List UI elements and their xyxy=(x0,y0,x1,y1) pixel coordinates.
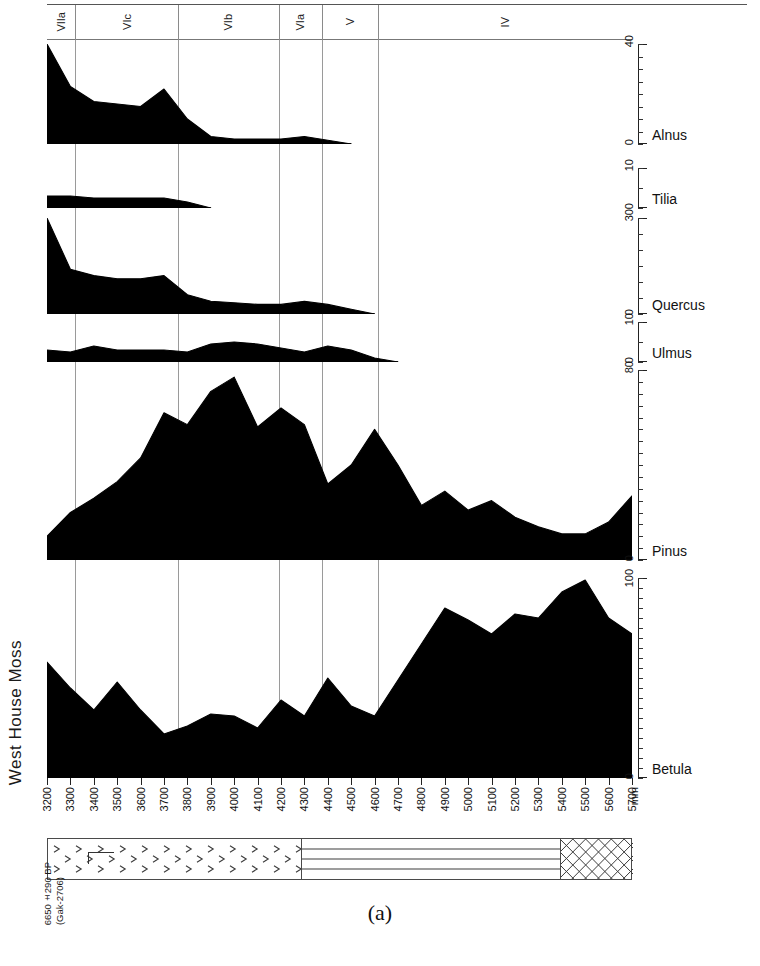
axis-tick-label-box: 30 xyxy=(623,209,635,223)
axis-tick xyxy=(638,658,643,659)
depth-tick xyxy=(398,778,399,785)
depth-tick xyxy=(258,778,259,785)
zone-label-text: VIb xyxy=(222,14,234,31)
axis-tick xyxy=(638,501,643,502)
figure-caption: (a) xyxy=(0,900,760,926)
axis-tick-label: 80 xyxy=(623,361,635,373)
depth-tick xyxy=(304,778,305,785)
depth-tick-label-box: 3800 xyxy=(181,787,193,813)
depth-tick-label: 5300 xyxy=(532,787,544,811)
depth-tick-label-box: 4600 xyxy=(369,787,381,813)
axis-tick xyxy=(638,648,643,649)
pollen-diagram: West House Moss VIIaVIcVIbVIaVIV 040Alnu… xyxy=(0,0,760,966)
axis-tick-label-box: 0 xyxy=(623,551,635,563)
depth-tick-label: 4400 xyxy=(322,787,334,811)
depth-tick-label: 3300 xyxy=(64,787,76,811)
taxon-label-betula: Betula xyxy=(652,761,692,777)
cross-hatch-mark xyxy=(598,839,633,879)
axis-tick xyxy=(638,489,643,490)
depth-tick-label-box: 5400 xyxy=(556,787,568,813)
depth-tick-label: 5600 xyxy=(603,787,615,811)
chevron-mark xyxy=(208,846,213,852)
axis-tick xyxy=(638,69,643,70)
axis-tick xyxy=(638,234,643,235)
curve-betula xyxy=(47,578,632,778)
axis-tick xyxy=(638,394,643,395)
axis-tick-label-box: 40 xyxy=(623,35,635,49)
depth-tick-label-box: 4500 xyxy=(345,787,357,813)
axis-tick-label: 30 xyxy=(623,209,635,221)
axis-tick xyxy=(638,588,643,589)
depth-tick-label: 5000 xyxy=(462,787,474,811)
depth-tick-label: 4700 xyxy=(392,787,404,811)
depth-tick xyxy=(585,778,586,785)
depth-tick xyxy=(211,778,212,785)
axis-tick xyxy=(638,453,643,454)
axis-tick xyxy=(638,382,643,383)
chevron-mark xyxy=(153,856,158,862)
zone-header-strip: VIIaVIcVIbVIaVIV xyxy=(47,4,632,40)
axis-tick xyxy=(638,768,643,769)
depth-tick-label: 4600 xyxy=(369,787,381,811)
depth-unit-label: mm xyxy=(628,787,640,807)
chevron-mark xyxy=(76,866,81,872)
taxon-label-tilia: Tilia xyxy=(652,191,677,207)
chevron-mark xyxy=(197,856,202,862)
depth-tick-label-box: 5500 xyxy=(579,787,591,813)
depth-tick xyxy=(515,778,516,785)
depth-tick xyxy=(328,778,329,785)
date-leader-line xyxy=(88,852,114,853)
depth-tick-label-box: 3400 xyxy=(88,787,100,813)
lithology-unit-laminated-mud xyxy=(301,839,561,879)
depth-tick-label: 4100 xyxy=(252,787,264,811)
axis-tick xyxy=(638,748,643,749)
chevron-mark xyxy=(274,866,279,872)
axis-tick xyxy=(638,429,643,430)
depth-tick-label-box: 5600 xyxy=(603,787,615,813)
axis-tick-label: 100 xyxy=(623,569,635,587)
curve-ulmus xyxy=(47,322,632,362)
zone-divider xyxy=(378,5,379,41)
depth-tick-label: 4800 xyxy=(415,787,427,811)
chevron-mark xyxy=(186,846,191,852)
depth-tick xyxy=(609,778,610,785)
axis-tick xyxy=(638,250,643,251)
depth-tick-label-box: 4200 xyxy=(275,787,287,813)
curve-silhouette xyxy=(47,218,375,314)
chevron-mark xyxy=(120,846,125,852)
depth-tick xyxy=(47,778,48,785)
lithology-unit-clay-gyttja xyxy=(560,839,633,879)
depth-tick-label-box: 3500 xyxy=(111,787,123,813)
curve-silhouette xyxy=(47,196,211,208)
chevron-mark xyxy=(142,846,147,852)
depth-tick-label-box: 4300 xyxy=(298,787,310,813)
depth-tick-label-box: 4400 xyxy=(322,787,334,813)
taxon-label-quercus: Quercus xyxy=(652,297,705,313)
zone-label-text: V xyxy=(344,18,356,25)
axis-tick-label: 40 xyxy=(623,35,635,47)
axis-tick xyxy=(638,598,643,599)
depth-tick-label: 3700 xyxy=(158,787,170,811)
depth-tick xyxy=(234,778,235,785)
chevron-mark xyxy=(241,856,246,862)
depth-tick-label: 5200 xyxy=(509,787,521,811)
curve-silhouette xyxy=(47,44,351,144)
axis-tick xyxy=(638,628,643,629)
top-rule xyxy=(632,4,747,5)
taxon-label-pinus: Pinus xyxy=(652,543,687,559)
site-title: West House Moss xyxy=(6,640,26,790)
axis-tick xyxy=(638,218,643,219)
depth-tick-label-box: 3600 xyxy=(135,787,147,813)
zone-divider xyxy=(322,5,323,41)
depth-tick-label: 3500 xyxy=(111,787,123,811)
depth-tick xyxy=(141,778,142,785)
chevron-mark xyxy=(164,866,169,872)
depth-tick-label: 5400 xyxy=(556,787,568,811)
zone-label-vib: VIb xyxy=(178,5,279,39)
depth-tick-label-box: 5300 xyxy=(532,787,544,813)
axis-tick xyxy=(638,477,643,478)
axis-tick xyxy=(638,132,643,133)
axis-tick xyxy=(638,698,643,699)
depth-tick xyxy=(351,778,352,785)
chevron-mark xyxy=(54,846,59,852)
